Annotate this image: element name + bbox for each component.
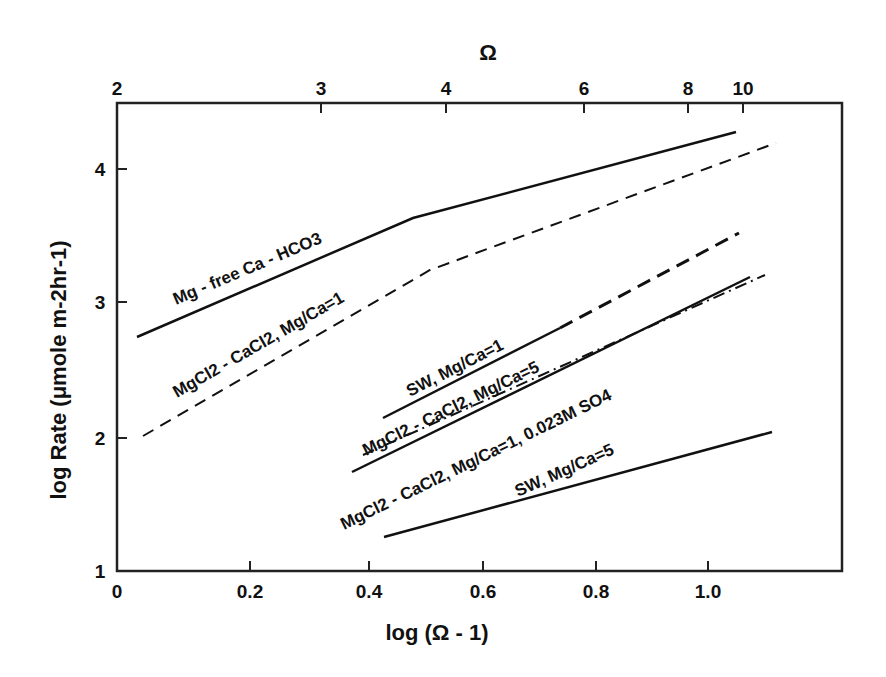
top-tick-label: 6 [579,78,590,99]
top-tick-label: 4 [441,78,452,99]
series-mg-free [137,132,736,337]
y-axis-title: log Rate (μmole m-2hr-1) [46,240,71,499]
series-sw-mgca1-dashed [560,233,739,328]
y-tick-label: 4 [95,159,106,180]
top-axis-title: Ω [479,40,497,65]
label-mg-free: Mg - free Ca - HCO3 [170,229,324,309]
x-tick-label: 0.4 [356,581,383,602]
top-tick-label: 3 [316,78,327,99]
top-tick-label: 10 [732,78,753,99]
x-tick-label: 0.6 [470,581,496,602]
x-tick-label: 1.0 [695,581,721,602]
x-tick-label: 0 [112,581,123,602]
top-tick-label: 8 [683,78,694,99]
plot-frame [117,103,842,571]
series-mgcl2-so4 [352,277,750,472]
y-tick-label: 1 [95,561,106,582]
series-mgcl2-mgca1 [143,143,776,436]
y-tick-label: 3 [95,292,106,313]
x-axis-title: log (Ω - 1) [385,620,488,645]
label-sw-mgca5: SW, Mg/Ca=5 [512,440,617,501]
top-tick-label: 2 [112,78,123,99]
x-tick-label: 0.8 [583,581,609,602]
y-tick-label: 2 [95,428,106,449]
chart: 2 3 4 6 8 10 Ω 0 0.2 0.4 0.6 0.8 1.0 log… [0,0,886,677]
x-tick-label: 0.2 [237,581,263,602]
label-mgcl2-mgca1: MgCl2 - CaCl2, Mg/Ca=1 [170,288,348,402]
y-axis: 4 3 2 1 log Rate (μmole m-2hr-1) [46,159,127,582]
x-axis: 0 0.2 0.4 0.6 0.8 1.0 log (Ω - 1) [112,561,722,645]
